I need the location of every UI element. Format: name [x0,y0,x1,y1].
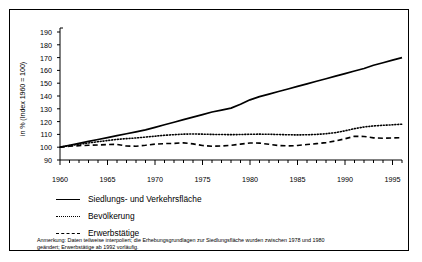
y-axis-tick-label: 160 [40,67,52,74]
series-line-siedlungs-und-verkehrsflaeche [60,58,402,148]
x-axis-tick-label: 1970 [147,176,163,184]
y-axis-tick-label: 90 [44,157,52,164]
legend-label: Siedlungs- und Verkehrsfläche [88,194,202,204]
x-axis-tick-label: 1995 [385,176,401,184]
x-axis-tick-label: 1985 [290,176,306,184]
y-axis-tick-label: 110 [41,131,52,138]
legend-line-solid-icon [56,194,80,204]
legend-item-siedlungs-und-verkehrsflaeche: Siedlungs- und Verkehrsfläche [56,192,386,206]
x-axis-tick-label: 1965 [100,176,116,184]
y-axis-tick-label: 180 [40,41,52,48]
x-axis-tick-label: 1990 [337,176,353,184]
y-axis-tick-label: 100 [40,144,52,151]
y-axis-tick-labels: 19018017016015014013012011010090 [29,22,55,174]
plot-area-wrapper: 19018017016015014013012011010090 [29,22,404,174]
x-axis-tick-label: 1980 [242,176,258,184]
y-axis-tick-label: 120 [40,118,52,125]
x-axis-tick-labels: 19601965197019751980198519901995 [29,176,404,188]
y-axis-title-text: in % (Index 1960 = 100) [18,62,27,136]
legend-label: Bevölkerung [88,211,135,221]
y-axis-tick-label: 140 [40,93,52,100]
footnote-line-2: geändert; Erwerbstätige ab 1992 vorläufi… [37,244,397,251]
chart-legend: Siedlungs- und Verkehrsfläche Bevölkerun… [56,192,386,243]
y-axis-tick-label: 150 [40,80,52,87]
y-axis-tick-label: 130 [40,105,52,112]
figure-frame: in % (Index 1960 = 100) 1901801701601501… [9,9,409,251]
chart-footnote: Anmerkung: Daten teilweise interpoliert;… [37,237,397,252]
legend-item-bevoelkerung: Bevölkerung [56,209,386,223]
line-chart-svg [56,22,404,174]
footnote-line-1: Anmerkung: Daten teilweise interpoliert;… [37,237,397,244]
series-line-erwerbstaetige [60,136,402,147]
y-axis-tick-label: 170 [40,54,52,61]
y-axis-tick-label: 190 [40,29,52,36]
x-axis-tick-label: 1960 [52,176,68,184]
legend-line-dotted-icon [56,211,80,221]
plot-area [56,22,404,174]
y-axis-title: in % (Index 1960 = 100) [15,24,29,174]
x-axis-tick-label: 1975 [195,176,211,184]
